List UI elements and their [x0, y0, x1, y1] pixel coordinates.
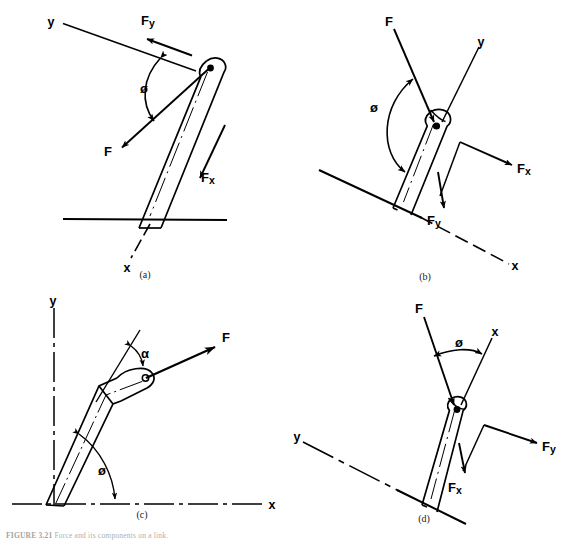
force-x-label-b: Fx	[517, 161, 531, 177]
force-vector-a	[122, 70, 208, 148]
force-y-label-main-a: F	[141, 13, 149, 28]
angle-phi-label-c: ø	[98, 463, 106, 478]
angle-phi-label-d: ø	[455, 335, 463, 350]
force-y-label-b: Fy	[427, 213, 441, 229]
force-y-label-sub-b: y	[435, 217, 441, 229]
figure-caption: FIGURE 3.21 Force and its components on …	[6, 531, 168, 540]
axis-x-label-c: x	[269, 498, 276, 512]
angle-phi-label-a: ø	[140, 81, 148, 96]
panel-label-b: (b)	[419, 271, 431, 283]
force-x-vector-b	[460, 142, 512, 165]
force-y-vector-a	[147, 39, 192, 56]
force-label-a: F	[104, 144, 112, 159]
angle-phi-arc-b	[387, 79, 413, 172]
figure-caption-prefix: FIGURE 3.21	[6, 531, 52, 540]
axis-x-label-b: x	[512, 259, 519, 273]
axis-y-label-d: y	[294, 430, 301, 444]
panel-b: F y x ø Fx Fy (b)	[281, 0, 562, 290]
axis-y-line-a	[63, 24, 196, 72]
angle-phi-arc-c	[79, 434, 115, 499]
panel-label-a: (a)	[139, 269, 150, 281]
axis-y-label-b: y	[478, 35, 485, 49]
axis-y-line-b	[442, 47, 479, 122]
force-y-vector-b	[438, 172, 444, 208]
link-body-a	[139, 58, 226, 228]
panel-d: F x y ø Fy Fx (d)	[281, 285, 562, 539]
force-x-label-sub-d: x	[456, 484, 462, 496]
angle-phi-label-b: ø	[370, 100, 378, 115]
pivot-point-b	[433, 122, 440, 129]
force-label-d: F	[415, 301, 423, 316]
axis-y-label-a: y	[48, 15, 55, 29]
axis-x-line-a	[131, 224, 150, 258]
angle-phi-arc-d	[434, 350, 482, 356]
link-centerline-a	[150, 72, 208, 216]
force-x-label-sub-a: x	[209, 174, 215, 186]
figure-caption-text: Force and its components on a link.	[54, 531, 168, 540]
force-y-label-a: Fy	[141, 13, 155, 29]
link-centerline-c	[55, 380, 146, 505]
force-x-label-sub-b: x	[525, 165, 531, 177]
force-y-leader-d	[463, 425, 484, 471]
axis-x-label-a: x	[124, 261, 131, 275]
force-vector-c	[146, 347, 215, 378]
link-body-c	[46, 368, 154, 506]
force-x-leader-b	[440, 142, 460, 196]
force-x-vector-d	[459, 443, 465, 473]
panel-c: y x F α ø (c)	[0, 285, 281, 539]
force-vector-b	[394, 29, 434, 122]
alpha-reference-line-c	[96, 330, 140, 402]
panel-label-d: (d)	[418, 513, 430, 525]
ground-line-a	[63, 219, 227, 220]
axis-x-line-d	[461, 338, 492, 405]
force-label-c: F	[222, 330, 230, 345]
force-y-label-main-b: F	[427, 213, 435, 228]
force-x-label-d: Fx	[448, 480, 462, 496]
force-y-label-sub-a: y	[149, 17, 155, 29]
link-centerline-b	[404, 124, 434, 202]
force-y-label-main-d: F	[542, 439, 550, 454]
force-x-label-main-b: F	[517, 161, 525, 176]
angle-alpha-label-c: α	[141, 346, 149, 361]
force-x-label-main-d: F	[448, 480, 456, 495]
panel-a: y x F ø Fy Fx (a)	[0, 0, 281, 290]
force-label-b: F	[385, 14, 393, 29]
force-y-label-d: Fy	[542, 439, 556, 455]
force-y-vector-d	[484, 425, 537, 443]
axis-y-line-d	[303, 442, 399, 491]
axis-y-label-c: y	[50, 294, 57, 308]
force-x-label-a: Fx	[201, 170, 215, 186]
force-y-label-sub-d: y	[550, 443, 556, 455]
panel-label-c: (c)	[136, 509, 147, 521]
axis-x-label-d: x	[492, 325, 499, 339]
force-x-label-main-a: F	[201, 170, 209, 185]
force-vector-d	[424, 317, 454, 405]
